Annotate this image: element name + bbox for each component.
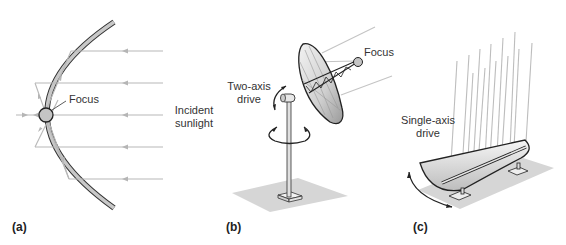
two-axis-drive-line1: Two-axis — [223, 80, 275, 93]
incident-sunlight-line2: sunlight — [168, 117, 220, 130]
panel-label-a: (a) — [12, 220, 27, 234]
incident-sunlight-label: Incident sunlight — [168, 104, 220, 130]
two-axis-drive-label: Two-axis drive — [223, 80, 275, 106]
incident-sunlight-line1: Incident — [168, 104, 220, 117]
panel-a-parabolic-reflector — [16, 22, 163, 208]
panel-label-c: (c) — [413, 220, 428, 234]
focus-point — [39, 108, 53, 122]
single-axis-drive-line2: drive — [397, 127, 459, 140]
single-axis-drive-label: Single-axis drive — [397, 114, 459, 140]
focus-label-b: Focus — [364, 46, 394, 59]
single-axis-drive-line1: Single-axis — [397, 114, 459, 127]
dish-focus-receiver — [354, 58, 363, 67]
two-axis-drive-line2: drive — [223, 93, 275, 106]
solar-concentrator-diagram — [0, 0, 566, 245]
focus-label-a: Focus — [69, 93, 99, 106]
panel-label-b: (b) — [226, 220, 241, 234]
support-pole — [287, 101, 291, 197]
